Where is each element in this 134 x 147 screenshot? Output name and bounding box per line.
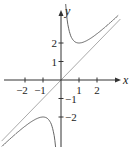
- y-axis-arrow-icon: [59, 10, 64, 16]
- x-tick-label: −1: [34, 84, 46, 96]
- x-axis-label: x: [122, 73, 129, 87]
- x-tick-label: 1: [76, 84, 82, 96]
- y-tick-label: 2: [52, 37, 58, 49]
- curve-branch: [66, 4, 119, 43]
- y-tick-label: −1: [65, 93, 77, 105]
- y-tick-label: 1: [52, 56, 58, 68]
- curve-branch: [2, 117, 56, 147]
- y-axis-label: y: [64, 4, 71, 18]
- x-tick-label: −2: [16, 84, 28, 96]
- x-axis-arrow-icon: [115, 78, 121, 83]
- y-tick-label: −2: [65, 111, 77, 123]
- x-tick-label: 2: [94, 84, 100, 96]
- chart-canvas: x y −2−112−2−112: [0, 0, 134, 147]
